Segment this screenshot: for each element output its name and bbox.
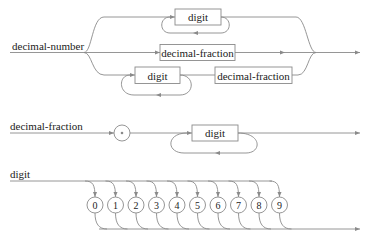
digit-terminal-8: 8 (249, 181, 271, 229)
arrow-icon (156, 93, 161, 97)
digit-terminal-9: 9 (270, 181, 292, 229)
arrow-icon (109, 131, 114, 135)
digit-terminal-1: 1 (106, 181, 128, 229)
digit-terminal-6: 6 (208, 181, 230, 229)
svg-text:5: 5 (195, 200, 200, 211)
rule-name-decimal-number: decimal-number (12, 40, 84, 52)
svg-text:0: 0 (93, 200, 98, 211)
arrow-icon (155, 51, 160, 55)
svg-text:6: 6 (216, 200, 221, 211)
digit-terminal-2: 2 (126, 181, 148, 229)
branch-bottom-out (292, 53, 316, 76)
digit-rule: digit 0 1 2 3 4 (10, 168, 360, 231)
arrow-icon (215, 151, 220, 155)
digit-terminal-7: 7 (229, 181, 251, 229)
decimal-number-rule: decimal-number digit decimal-fraction di… (10, 9, 360, 97)
arrow-icon (355, 51, 360, 55)
arrow-icon (355, 227, 360, 231)
nonterminal-label: digit (205, 127, 225, 139)
svg-text:9: 9 (277, 200, 282, 211)
arrow-icon (193, 31, 198, 35)
dot-icon (121, 132, 124, 135)
nonterminal-label: decimal-fraction (217, 70, 290, 82)
svg-text:2: 2 (134, 200, 139, 211)
arrow-icon (355, 131, 360, 135)
syntax-diagram: decimal-number digit decimal-fraction di… (0, 0, 371, 241)
digit-terminal-0: 0 (85, 181, 107, 229)
digit-terminal-3: 3 (147, 181, 169, 229)
svg-text:8: 8 (257, 200, 262, 211)
arrow-icon (170, 15, 175, 19)
svg-text:4: 4 (175, 200, 180, 211)
arrow-icon (280, 51, 285, 55)
nonterminal-label: digit (147, 70, 167, 82)
decimal-fraction-rule: decimal-fraction digit (10, 120, 360, 155)
svg-text:7: 7 (236, 200, 241, 211)
branch-bottom (84, 53, 135, 76)
nonterminal-label: decimal-fraction (161, 47, 234, 59)
digit-terminal-5: 5 (188, 181, 210, 229)
rule-name-decimal-fraction: decimal-fraction (10, 120, 83, 132)
digit-terminal-4: 4 (167, 181, 189, 229)
arrow-icon (187, 131, 192, 135)
arrow-icon (130, 73, 135, 77)
nonterminal-label: digit (188, 11, 208, 23)
svg-text:3: 3 (154, 200, 159, 211)
svg-text:1: 1 (113, 200, 118, 211)
rule-name-digit: digit (10, 168, 30, 180)
